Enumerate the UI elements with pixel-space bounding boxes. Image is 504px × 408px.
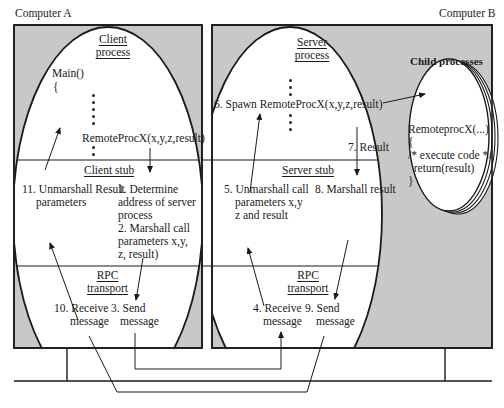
server-ellipsis-dots-top	[289, 79, 292, 100]
client-ellipsis-dots-bottom	[92, 146, 95, 160]
server-step-9: 9. Send message	[305, 302, 355, 328]
computer-b-label: Computer B	[439, 7, 496, 20]
server-step-4: 4. Receive message	[253, 302, 302, 328]
client-remote-call: RemoteProcX(x,y,z,result)	[82, 132, 205, 145]
client-main-brace: {	[53, 81, 59, 94]
client-steps-1-2: 1. Determine address of server process 2…	[118, 183, 196, 261]
child-process-code: RemoteprocX(...) { /* execute code */ re…	[408, 123, 491, 188]
server-step-5: 5. Unmarshall call parameters x,y z and …	[224, 183, 309, 222]
server-step-7: 7. Result	[348, 141, 389, 154]
server-stub-title: Server stub	[282, 164, 334, 177]
server-process-title: Server process	[282, 36, 342, 62]
server-transport-title: RPC transport	[278, 269, 338, 295]
computer-a-label: Computer A	[15, 7, 72, 20]
client-main-line: Main()	[52, 67, 84, 80]
server-step-8: 8. Marshall result	[315, 183, 396, 196]
client-step-11: 11. Unmarshall Result parameters	[22, 183, 125, 209]
child-processes-title: Child processes	[410, 55, 483, 68]
client-ellipsis-dots-top	[92, 94, 95, 129]
server-ellipsis-dots-bottom	[289, 114, 292, 135]
client-process-title: Client process	[78, 33, 148, 59]
client-stub-title: Client stub	[84, 164, 134, 177]
server-spawn-call: 6. Spawn RemoteProcX(x,y,z,result)	[214, 98, 383, 111]
client-step-3: 3. Send message	[108, 302, 159, 328]
client-transport-title: RPC transport	[75, 269, 140, 295]
client-step-10: 10. Receive message	[54, 302, 109, 328]
